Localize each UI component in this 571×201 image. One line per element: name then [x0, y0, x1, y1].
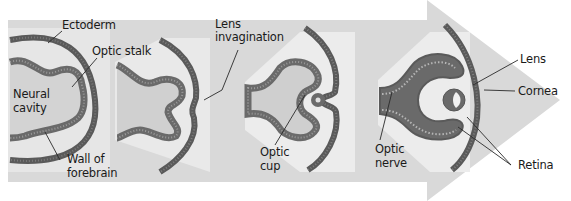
label-neural-cavity-line2: cavity: [13, 102, 47, 115]
label-optic-cup-line1: Optic: [260, 146, 289, 159]
label-wall-of-forebrain-line2: forebrain: [67, 167, 117, 180]
label-optic-nerve-line1: Optic: [375, 143, 404, 156]
label-cornea: Cornea: [518, 85, 558, 98]
eye-development-diagram: Ectoderm Optic stalk Neural cavity Wall …: [0, 0, 571, 201]
label-optic-stalk: Optic stalk: [92, 45, 151, 58]
label-neural-cavity-line1: Neural: [13, 88, 50, 101]
label-wall-of-forebrain-line1: Wall of: [67, 153, 104, 166]
label-ectoderm: Ectoderm: [62, 19, 116, 32]
label-retina: Retina: [518, 159, 553, 172]
label-lens-invagination-line2: invagination: [215, 31, 284, 44]
label-optic-nerve-line2: nerve: [375, 157, 407, 170]
label-optic-cup-line2: cup: [260, 160, 280, 173]
label-lens: Lens: [520, 53, 546, 66]
